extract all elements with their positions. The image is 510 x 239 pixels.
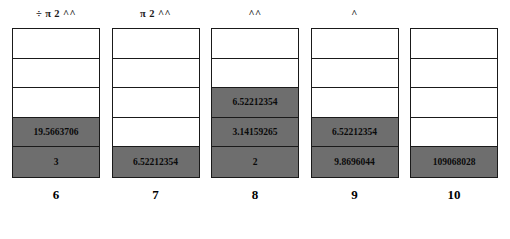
stack-cell-empty (113, 29, 199, 59)
stack-cell-empty (411, 59, 497, 89)
stack-cell-filled: 6.52212354 (312, 118, 398, 148)
stack-box: 6.52212354 (112, 28, 200, 178)
stack-column-header: ^^ (248, 0, 261, 28)
stack-column-label: 10 (448, 187, 461, 203)
stack-cell-empty (411, 88, 497, 118)
stack-column-label: 6 (53, 187, 60, 203)
stack-column-header: ^ (351, 0, 358, 28)
stack-cell-empty (13, 59, 99, 89)
stack-cell-empty (113, 88, 199, 118)
stack-cell-empty (212, 59, 298, 89)
stack-cell-empty (411, 118, 497, 148)
stack-cell-empty (13, 29, 99, 59)
stack-column-label: 8 (252, 187, 259, 203)
stack-cell-empty (312, 29, 398, 59)
stack-cell-filled: 6.52212354 (212, 88, 298, 118)
stack-cell-filled: 109068028 (411, 147, 497, 177)
stack-column-header: ÷ π 2 ^^ (36, 0, 76, 28)
stack-box: 109068028 (410, 28, 498, 178)
stack-cell-empty (411, 29, 497, 59)
stack-cell-filled: 9.8696044 (312, 147, 398, 177)
stack-cell-filled: 3.14159265 (212, 118, 298, 148)
stack-column-header: π 2 ^^ (140, 0, 171, 28)
stack-column-list: ÷ π 2 ^^19.566370636π 2 ^^6.522123547^^6… (0, 0, 510, 239)
stack-column: ^^6.522123543.1415926528 (211, 0, 299, 239)
stack-column: ^6.522123549.86960449 (311, 0, 399, 239)
stack-cell-filled: 3 (13, 147, 99, 177)
stack-column: ÷ π 2 ^^19.566370636 (12, 0, 100, 239)
stack-box: 6.522123543.141592652 (211, 28, 299, 178)
stack-column: π 2 ^^6.522123547 (112, 0, 200, 239)
stack-cell-empty (113, 59, 199, 89)
stack-box: 6.522123549.8696044 (311, 28, 399, 178)
stack-box: 19.56637063 (12, 28, 100, 178)
stack-cell-filled: 6.52212354 (113, 147, 199, 177)
stack-cell-filled: 19.5663706 (13, 118, 99, 148)
stack-cell-filled: 2 (212, 147, 298, 177)
stack-column-label: 9 (351, 187, 358, 203)
stack-cell-empty (312, 88, 398, 118)
stack-cell-empty (212, 29, 298, 59)
stack-cell-empty (312, 59, 398, 89)
stack-column: 10906802810 (410, 0, 498, 239)
stack-cell-empty (113, 118, 199, 148)
stack-column-label: 7 (152, 187, 159, 203)
stack-cell-empty (13, 88, 99, 118)
stack-diagram-figure: ÷ π 2 ^^19.566370636π 2 ^^6.522123547^^6… (0, 0, 510, 239)
